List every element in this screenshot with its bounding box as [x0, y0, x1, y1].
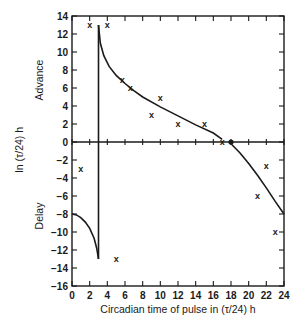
data-point-dot: [228, 139, 233, 144]
y-tick-label: −10: [51, 227, 68, 238]
data-point-x: x: [120, 75, 125, 85]
x-tick-label: 0: [69, 290, 75, 301]
curve-line: [231, 144, 284, 214]
x-tick-label: 14: [190, 290, 202, 301]
x-tick-label: 6: [122, 290, 128, 301]
y-tick-label: 10: [57, 47, 69, 58]
y-tick-label: 4: [62, 101, 68, 112]
data-point-x: x: [255, 191, 260, 201]
x-tick-label: 18: [225, 290, 237, 301]
y-tick-label: 12: [57, 29, 69, 40]
data-point-x: x: [273, 227, 278, 237]
delay-label: Delay: [33, 202, 45, 230]
data-point-x: x: [149, 110, 154, 120]
x-tick-label: 22: [261, 290, 273, 301]
x-tick-label: 8: [140, 290, 146, 301]
curve-line: [72, 214, 99, 259]
y-axis-title: In (τ/24) h: [13, 127, 25, 173]
phase-response-chart: 02468101214161820222414121086420−2−4−6−8…: [0, 0, 304, 326]
data-point-x: x: [202, 119, 207, 129]
y-tick-label: −8: [57, 209, 69, 220]
data-point-x: x: [105, 20, 110, 30]
y-tick-label: −12: [51, 245, 68, 256]
y-tick-label: 2: [62, 119, 68, 130]
y-tick-label: 0: [62, 137, 68, 148]
y-tick-label: 8: [62, 65, 68, 76]
axes: 02468101214161820222414121086420−2−4−6−8…: [51, 11, 290, 302]
x-tick-label: 2: [87, 290, 93, 301]
data-point-x: x: [264, 161, 269, 171]
advance-label: Advance: [33, 59, 45, 100]
y-tick-label: 14: [57, 11, 69, 22]
y-tick-label: −2: [57, 155, 69, 166]
data-point-x: x: [78, 164, 83, 174]
data-point-x: x: [175, 119, 180, 129]
x-tick-label: 10: [155, 290, 167, 301]
data-point-x: x: [220, 137, 225, 147]
x-tick-label: 4: [105, 290, 111, 301]
data-point-x: x: [158, 93, 163, 103]
y-tick-label: −16: [51, 281, 68, 292]
x-tick-label: 12: [172, 290, 184, 301]
x-axis-title: Circadian time of pulse in (τ/24) h: [100, 303, 255, 315]
data-point-x: x: [87, 20, 92, 30]
y-tick-label: 6: [62, 83, 68, 94]
y-tick-label: −6: [57, 191, 69, 202]
data-point-x: x: [128, 83, 133, 93]
y-tick-label: −4: [57, 173, 69, 184]
x-tick-label: 20: [243, 290, 255, 301]
x-tick-label: 16: [208, 290, 220, 301]
y-tick-label: −14: [51, 263, 68, 274]
x-tick-label: 24: [278, 290, 290, 301]
data-point-x: x: [114, 254, 119, 264]
